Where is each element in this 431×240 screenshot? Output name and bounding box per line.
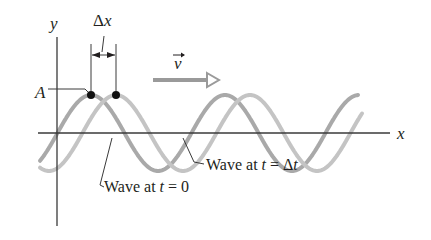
delta-x-var: x: [103, 11, 112, 30]
y-axis-label: y: [48, 14, 58, 33]
amplitude-leader-line: [48, 89, 90, 94]
peak-marker-t0: [87, 91, 95, 99]
velocity-label: v: [174, 54, 182, 73]
amplitude-label: A: [34, 83, 46, 102]
peak-marker-tdt: [112, 91, 120, 99]
wave-tdt-label: Wave at t = Δt: [206, 156, 298, 173]
delta-x-arrowhead-right: [107, 52, 115, 58]
delta-symbol: Δ: [93, 11, 104, 30]
velocity-vector-bar-head: [181, 53, 185, 58]
delta-x-arrowhead-left: [92, 52, 100, 58]
wave-t0-label: Wave at t = 0: [104, 178, 189, 195]
delta-x-leader: [102, 36, 104, 52]
velocity-arrow-icon: [153, 73, 219, 87]
wave-diagram: x y A Δx v Wave at t = Δt Wave at t = 0: [0, 0, 431, 240]
delta-x-label: Δx: [93, 11, 112, 30]
x-axis-label: x: [396, 124, 405, 143]
